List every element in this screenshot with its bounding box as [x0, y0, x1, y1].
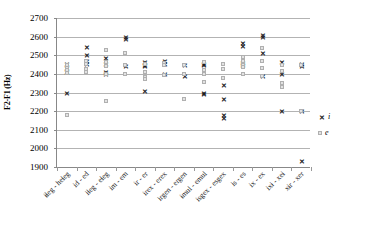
y-axis-tick-label: 1900 [30, 163, 48, 172]
plot-area: ✕✕✕✕✕✕✕✕✕✕✕✕✕✕✕✕✕✕✕✕✕✕✕✕✕✕✕✕✕✕✕✕✕✕✕✕✕✕✕✕… [56, 18, 310, 167]
gridline [57, 55, 310, 56]
data-point-e [123, 72, 127, 76]
data-point-e [143, 62, 147, 66]
gridline [57, 37, 310, 38]
data-point-e [182, 97, 186, 101]
data-point-e [84, 70, 88, 74]
data-point-i: ✕ [221, 97, 226, 102]
y-axis-tickmark [54, 55, 57, 56]
legend-entry[interactable]: ✕i [318, 112, 330, 122]
y-axis-tick-labels: 270026002500240023002200210020001900 [14, 18, 52, 167]
y-axis-tickmark [54, 111, 57, 112]
data-point-e [182, 63, 186, 67]
data-point-e [182, 72, 186, 76]
x-axis-category-label: xɨr - xer [283, 170, 305, 192]
x-axis-tickmark [311, 167, 312, 171]
x-axis-category-label: ixɨ - xeɨ [264, 170, 286, 192]
data-point-e [202, 80, 206, 84]
legend-label: i [328, 113, 330, 121]
data-point-e [260, 46, 264, 50]
data-point-e [260, 74, 264, 78]
gridline [57, 130, 310, 131]
data-point-e [280, 85, 284, 89]
data-point-e [123, 63, 127, 67]
gridline [57, 18, 310, 19]
data-point-e [123, 51, 127, 55]
data-point-i: ✕ [221, 116, 226, 121]
data-point-i: ✕ [279, 109, 284, 114]
y-axis-tickmark [54, 93, 57, 94]
y-axis-title: F2-F1 (Hz) [0, 52, 14, 132]
scatter-chart: F2-F1 (Hz) 27002600250024002300220021002… [0, 0, 372, 240]
data-point-e [84, 62, 88, 66]
data-point-e [260, 59, 264, 63]
data-point-i: ✕ [240, 44, 245, 49]
x-axis-category-label: ɨɬeg - heɬeg [42, 170, 71, 199]
x-axis-category-label: im - em [108, 170, 130, 192]
y-axis-tick-label: 2500 [30, 51, 48, 60]
data-point-e [65, 113, 69, 117]
y-axis-tick-label: 2600 [30, 32, 48, 41]
gridline [57, 93, 310, 94]
data-point-e [260, 66, 264, 70]
data-point-i: ✕ [142, 88, 147, 93]
data-point-e [241, 65, 245, 69]
chart-legend: ✕ie [318, 112, 366, 144]
data-point-e [104, 48, 108, 52]
y-axis-tick-label: 2300 [30, 88, 48, 97]
y-axis-tick-label: 2100 [30, 125, 48, 134]
data-point-e [202, 60, 206, 64]
x-axis-category-label: is - es [229, 170, 247, 188]
x-axis-tick-labels: ɨɬeg - heɬegid - ediɬeg - eɬegim - emir … [56, 170, 310, 240]
data-point-e [162, 73, 166, 77]
data-point-e [104, 64, 108, 68]
y-axis-tickmark [54, 130, 57, 131]
y-axis-tick-label: 2400 [30, 69, 48, 78]
data-point-e [221, 62, 225, 66]
data-point-e [143, 77, 147, 81]
y-axis-tick-label: 2000 [30, 144, 48, 153]
y-axis-tickmark [54, 18, 57, 19]
data-point-i: ✕ [64, 90, 69, 95]
y-axis-tick-label: 2700 [30, 14, 48, 23]
data-point-i: ✕ [260, 34, 265, 39]
gridline [57, 111, 310, 112]
data-point-e [104, 60, 108, 64]
legend-label: e [325, 129, 329, 137]
data-point-e [299, 109, 303, 113]
data-point-e [104, 72, 108, 76]
data-point-e [280, 69, 284, 73]
data-point-i: ✕ [123, 36, 128, 41]
y-axis-tick-label: 2200 [30, 107, 48, 116]
data-point-e [241, 72, 245, 76]
data-point-e [221, 67, 225, 71]
legend-square-marker-icon [318, 131, 322, 135]
data-point-e [104, 99, 108, 103]
data-point-i: ✕ [221, 83, 226, 88]
data-point-i: ✕ [299, 159, 304, 164]
data-point-e [202, 72, 206, 76]
gridline [57, 148, 310, 149]
data-point-i: ✕ [201, 92, 206, 97]
y-axis-tickmark [54, 37, 57, 38]
y-axis-tickmark [54, 74, 57, 75]
data-point-e [162, 63, 166, 67]
legend-x-marker-icon: ✕ [318, 114, 325, 121]
y-axis-tickmark [54, 148, 57, 149]
legend-entry[interactable]: e [318, 128, 329, 138]
data-point-i: ✕ [260, 51, 265, 56]
data-point-e [65, 71, 69, 75]
data-point-e [299, 63, 303, 67]
data-point-e [221, 76, 225, 80]
data-point-e [280, 63, 284, 67]
data-point-i: ✕ [84, 44, 89, 49]
